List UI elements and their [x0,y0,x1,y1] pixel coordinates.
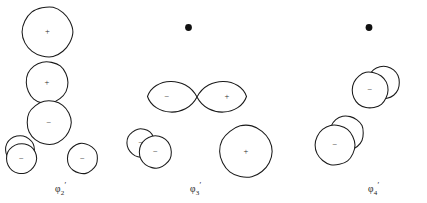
panel-label-phi3: φ3′ [190,181,201,197]
orbital-lobe-front-left-small-sign: − [153,146,158,156]
orbital-lobe-top-sign: + [45,26,50,36]
orbital-lobe-bottom-right-sign: − [80,153,85,163]
orbital-panel-phi3: −+−−+ [127,24,272,177]
label-prime: ′ [199,181,201,190]
orbital-lobe-figure-eight-left [148,81,198,112]
orbital-lobe-bottom-right-large-sign: + [244,146,249,156]
label-prime: ′ [64,181,66,190]
label-subscript: 4 [374,189,378,197]
label-subscript: 3 [196,189,200,197]
panel-label-phi4: φ4′ [368,181,379,197]
orbital-panel-phi4: +−+− [315,24,399,165]
molecular-orbital-diagram: ++−−−−−+−−++−+− [0,0,427,203]
panel-label-phi2: φ2′ [55,181,66,197]
orbital-lobe-upper-front-sign: − [368,84,373,94]
orbital-lobe-front-left-small-sign: − [19,153,24,163]
orbital-lobe-figure-eight-right [197,81,247,112]
atom-dot-center-top [366,24,373,31]
atom-dot-center-top [185,24,192,31]
figure-canvas: ++−−−−−+−−++−+− φ2′ φ3′ φ4′ [0,0,427,203]
orbital-panel-phi2: ++−−−− [6,7,98,174]
orbital-lobe-figure-eight-right-sign: + [225,91,230,101]
label-prime: ′ [377,181,379,190]
orbital-lobe-lower-middle-sign: − [47,117,52,127]
orbital-lobe-lower-front-sign: − [333,139,338,149]
orbital-lobe-figure-eight-left-sign: − [165,91,170,101]
orbital-lobe-upper-middle-sign: + [45,77,50,87]
label-subscript: 2 [61,189,65,197]
